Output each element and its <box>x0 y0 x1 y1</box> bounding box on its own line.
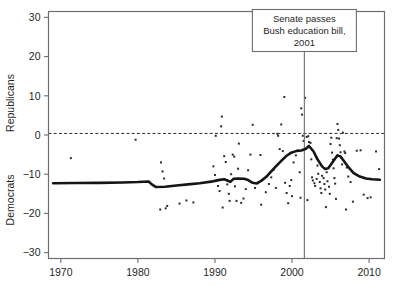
data-point <box>323 183 325 185</box>
data-point <box>356 150 358 152</box>
data-point <box>345 208 347 210</box>
x-tick-label: 1990 <box>203 266 227 278</box>
data-point <box>338 138 340 140</box>
annotation-line-3: 2001 <box>294 37 315 48</box>
y-tick-label: −10 <box>23 168 41 180</box>
data-point <box>326 171 328 173</box>
data-point <box>340 151 342 153</box>
data-point <box>234 185 236 187</box>
data-point <box>317 173 319 175</box>
data-point <box>330 143 332 145</box>
data-point <box>323 177 325 179</box>
data-point <box>212 165 214 167</box>
data-point <box>237 168 239 170</box>
data-point <box>310 142 312 144</box>
data-point <box>329 193 331 195</box>
data-point <box>311 176 313 178</box>
data-point <box>159 208 161 210</box>
data-point <box>232 154 234 156</box>
data-point <box>321 175 323 177</box>
data-point <box>344 152 346 154</box>
data-point <box>259 154 261 156</box>
data-point <box>333 167 335 169</box>
chart-container: 19701980199020002010 −30−20−100102030 Re… <box>0 0 397 289</box>
data-point <box>326 180 328 182</box>
data-point <box>316 165 318 167</box>
y-axis-label-democrats: Democrats <box>4 175 16 226</box>
data-point <box>254 187 256 189</box>
data-point <box>319 181 321 183</box>
data-point <box>350 181 352 183</box>
data-point <box>337 129 339 131</box>
data-point <box>336 123 338 125</box>
data-point <box>247 169 249 171</box>
data-point <box>352 201 354 203</box>
y-tick-label: 10 <box>29 90 41 102</box>
annotation-line-2: Bush education bill, <box>263 25 345 36</box>
data-point <box>220 125 222 127</box>
scatter-plot-with-trend: 19701980199020002010 −30−20−100102030 Re… <box>0 0 397 289</box>
data-point <box>333 177 335 179</box>
data-point <box>375 150 377 152</box>
data-point <box>230 173 232 175</box>
data-point <box>378 168 380 170</box>
data-point <box>70 157 72 159</box>
data-point <box>310 158 312 160</box>
data-point <box>249 154 251 156</box>
data-point <box>291 195 293 197</box>
data-point <box>320 187 322 189</box>
data-point <box>367 197 369 199</box>
data-point <box>279 148 281 150</box>
data-point <box>221 116 223 118</box>
data-point <box>222 207 224 209</box>
data-point <box>226 183 228 185</box>
data-point <box>179 203 181 205</box>
data-point <box>295 154 297 156</box>
data-point <box>306 199 308 201</box>
data-point <box>300 107 302 109</box>
x-tick-label: 1970 <box>49 266 73 278</box>
data-point <box>283 96 285 98</box>
x-tick-label: 2000 <box>280 266 304 278</box>
data-point <box>314 185 316 187</box>
data-point <box>313 182 315 184</box>
y-tick-label: −30 <box>23 246 41 258</box>
data-point <box>300 197 302 199</box>
data-point <box>284 182 286 184</box>
data-point <box>301 114 303 116</box>
y-tick-label: 20 <box>29 50 41 62</box>
data-point <box>228 193 230 195</box>
data-point <box>347 176 349 178</box>
y-axis-label-republicans: Republicans <box>4 74 16 132</box>
data-point <box>334 183 336 185</box>
data-point <box>312 179 314 181</box>
data-point <box>252 124 254 126</box>
data-point <box>166 205 168 207</box>
data-point <box>276 133 278 135</box>
data-point <box>233 156 235 158</box>
data-point <box>370 196 372 198</box>
data-point <box>260 204 262 206</box>
data-point <box>277 135 279 137</box>
data-point <box>214 174 216 176</box>
data-point <box>265 191 267 193</box>
data-point <box>286 192 288 194</box>
data-point <box>324 188 326 190</box>
data-point <box>229 200 231 202</box>
data-point <box>316 178 318 180</box>
data-point <box>240 202 242 204</box>
data-point <box>360 149 362 151</box>
data-point <box>320 192 322 194</box>
x-tick-label: 1980 <box>126 266 150 278</box>
data-point <box>162 170 164 172</box>
data-point <box>336 137 338 139</box>
data-point <box>160 161 162 163</box>
data-point <box>225 161 227 163</box>
data-point <box>238 143 240 145</box>
data-point <box>192 201 194 203</box>
data-point <box>245 188 247 190</box>
data-point <box>185 199 187 201</box>
data-point <box>217 185 219 187</box>
data-point <box>341 163 343 165</box>
data-point <box>335 198 337 200</box>
